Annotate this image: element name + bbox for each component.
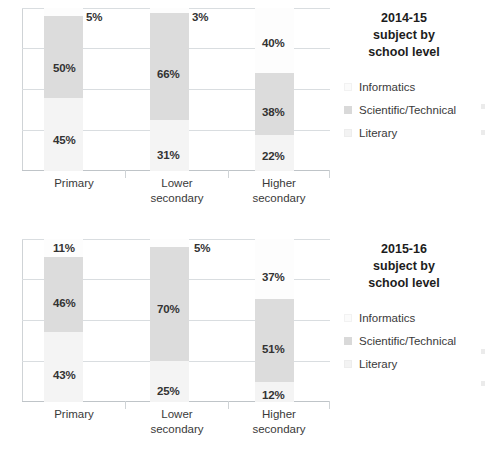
segment-informatics: [44, 8, 83, 16]
value-label-primary-informatics: 5%: [86, 11, 102, 23]
segment-informatics: [150, 8, 189, 13]
scan-artifact: [481, 130, 485, 135]
legend-item-informatics[interactable]: Informatics: [336, 306, 486, 329]
segment-scientific: [150, 13, 189, 121]
legend-label-scientific: Scientific/Technical: [359, 104, 456, 116]
category-label-line-2: secondary: [127, 191, 227, 206]
segment-literary: [150, 120, 189, 171]
category-axis-labels-bottom: Primary Lower secondary Higher secondary: [22, 407, 330, 453]
category-label-line-2: secondary: [229, 422, 329, 437]
legend-title-line-1: 2014-15: [338, 10, 470, 27]
category-label-line-1: Lower: [127, 407, 227, 422]
bar-higher-secondary: [255, 239, 294, 402]
legend-item-literary[interactable]: Literary: [336, 352, 486, 375]
value-label-primary-informatics: 11%: [53, 242, 75, 254]
value-label-higher-scientific: 51%: [262, 343, 284, 355]
category-label-line-1: Lower: [127, 176, 227, 191]
value-label-higher-literary: 22%: [262, 150, 284, 162]
value-label-primary-scientific: 50%: [53, 62, 75, 74]
legend-label-informatics: Informatics: [359, 312, 415, 324]
value-label-primary-scientific: 46%: [53, 297, 75, 309]
legend-top: 2014-15 subject by school level Informat…: [336, 10, 486, 144]
legend-swatch-scientific-icon: [344, 106, 352, 114]
scan-artifact: [481, 381, 485, 386]
category-label-line-2: secondary: [229, 191, 329, 206]
bar-primary: [44, 8, 83, 171]
legend-title-line-3: school level: [338, 44, 470, 61]
segment-informatics: [255, 239, 294, 299]
category-label-lower-secondary: Lower secondary: [127, 176, 227, 206]
legend-items-top: Informatics Scientific/Technical Literar…: [336, 75, 486, 144]
legend-item-scientific[interactable]: Scientific/Technical: [336, 98, 486, 121]
legend-title-line-2: subject by: [338, 27, 470, 44]
category-label-higher-secondary: Higher secondary: [229, 176, 329, 206]
bar-higher-secondary: [255, 8, 294, 171]
category-label-lower-secondary: Lower secondary: [127, 407, 227, 437]
legend-label-literary: Literary: [359, 358, 397, 370]
legend-title-top: 2014-15 subject by school level: [338, 10, 470, 61]
legend-swatch-informatics-icon: [344, 314, 352, 322]
bar-lower-secondary: [150, 239, 189, 402]
value-label-higher-informatics: 40%: [262, 37, 284, 49]
value-label-higher-informatics: 37%: [262, 271, 284, 283]
value-label-lower-literary: 31%: [157, 149, 179, 161]
category-label-line-1: Higher: [229, 407, 329, 422]
chart-2015-16: 43% 46% 11% 25% 70% 5% 12% 51% 37% Prima…: [0, 231, 487, 462]
legend-swatch-literary-icon: [344, 360, 352, 368]
segment-scientific: [255, 299, 294, 382]
plot-area-top: 45% 50% 5% 31% 66% 3% 22% 38% 40%: [22, 8, 330, 171]
legend-title-line-3: school level: [338, 275, 470, 292]
legend-bottom: 2015-16 subject by school level Informat…: [336, 241, 486, 375]
legend-label-informatics: Informatics: [359, 81, 415, 93]
segment-literary: [44, 332, 83, 402]
legend-swatch-informatics-icon: [344, 83, 352, 91]
legend-item-scientific[interactable]: Scientific/Technical: [336, 329, 486, 352]
category-label-line-1: Primary: [24, 176, 124, 191]
scan-artifact: [481, 104, 485, 109]
chart-2014-15: 45% 50% 5% 31% 66% 3% 22% 38% 40% Primar…: [0, 0, 487, 231]
segment-scientific: [255, 73, 294, 135]
value-label-lower-informatics: 5%: [194, 242, 210, 254]
value-label-primary-literary: 43%: [53, 369, 75, 381]
value-label-lower-scientific: 70%: [157, 303, 179, 315]
category-axis-labels-top: Primary Lower secondary Higher secondary: [22, 176, 330, 222]
legend-items-bottom: Informatics Scientific/Technical Literar…: [336, 306, 486, 375]
legend-label-literary: Literary: [359, 127, 397, 139]
value-label-primary-literary: 45%: [53, 134, 75, 146]
legend-item-informatics[interactable]: Informatics: [336, 75, 486, 98]
legend-title-line-1: 2015-16: [338, 241, 470, 258]
category-label-line-1: Primary: [24, 407, 124, 422]
bar-lower-secondary: [150, 8, 189, 171]
segment-scientific: [44, 16, 83, 98]
legend-label-scientific: Scientific/Technical: [359, 335, 456, 347]
category-label-primary: Primary: [24, 176, 124, 191]
plot-area-bottom: 43% 46% 11% 25% 70% 5% 12% 51% 37%: [22, 239, 330, 402]
value-label-higher-scientific: 38%: [262, 106, 284, 118]
scan-artifact: [481, 349, 485, 354]
value-label-higher-literary: 12%: [262, 389, 284, 401]
legend-title-line-2: subject by: [338, 258, 470, 275]
value-label-lower-scientific: 66%: [157, 68, 179, 80]
legend-swatch-scientific-icon: [344, 337, 352, 345]
legend-swatch-literary-icon: [344, 129, 352, 137]
category-label-line-2: secondary: [127, 422, 227, 437]
legend-item-literary[interactable]: Literary: [336, 121, 486, 144]
value-label-lower-literary: 25%: [157, 385, 179, 397]
legend-title-bottom: 2015-16 subject by school level: [338, 241, 470, 292]
category-label-line-1: Higher: [229, 176, 329, 191]
category-label-primary: Primary: [24, 407, 124, 422]
value-label-lower-informatics: 3%: [192, 11, 208, 23]
segment-informatics: [150, 239, 189, 247]
segment-scientific: [44, 257, 83, 332]
category-label-higher-secondary: Higher secondary: [229, 407, 329, 437]
